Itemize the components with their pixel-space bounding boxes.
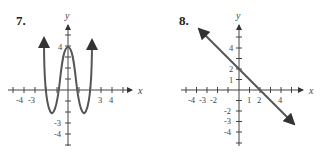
- linear-function-line-left-arrow: [199, 29, 206, 36]
- x-axis-label: x: [137, 85, 143, 96]
- y-tick-label: -2: [224, 106, 231, 116]
- y-tick-label: -3: [224, 116, 231, 126]
- x-tick-label: 3: [98, 95, 102, 105]
- y-tick-label: 4: [58, 42, 63, 52]
- y-tick-label: -4: [224, 127, 232, 137]
- x-tick-label: -3: [28, 95, 35, 105]
- x-tick-label: 1: [247, 95, 251, 105]
- y-axis-label: y: [64, 10, 70, 21]
- x-axis-label: x: [308, 85, 314, 96]
- x-tick-label: -3: [199, 95, 206, 105]
- x-tick-label: 4: [278, 95, 283, 105]
- linear-function-line: [201, 31, 294, 124]
- x-tick-label: -4: [16, 95, 24, 105]
- y-tick-label: -3: [54, 118, 61, 128]
- x-tick-label: -2: [210, 95, 217, 105]
- problem-number-8: 8.: [179, 13, 189, 29]
- graph-7-panel: 7.: [0, 0, 161, 161]
- y-tick-label: 4: [229, 43, 234, 53]
- x-tick-label: 4: [109, 95, 114, 105]
- y-tick-label: -4: [54, 129, 62, 139]
- problem-number-7: 7.: [16, 13, 26, 29]
- y-axis-label: y: [235, 10, 241, 21]
- y-tick-label: 2: [229, 64, 233, 74]
- y-tick-label: 1: [229, 75, 233, 85]
- graph-8-panel: 8.: [161, 0, 323, 161]
- x-tick-label: 2: [257, 95, 261, 105]
- x-tick-label: -4: [188, 95, 196, 105]
